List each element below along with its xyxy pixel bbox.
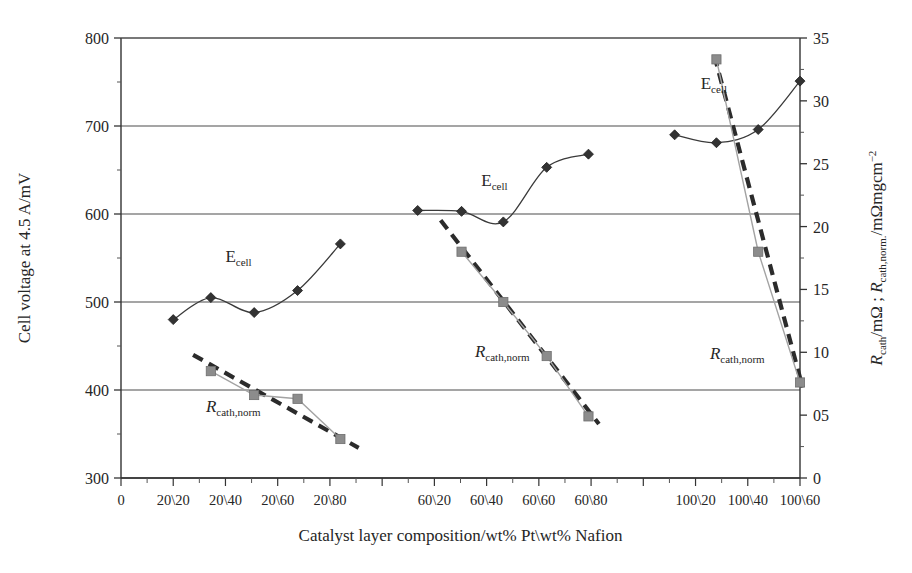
x-tick-label: 0 [117, 492, 124, 508]
y-tick-label-right: 20 [813, 219, 829, 236]
rcath-label-group1: Rcath,norm [205, 397, 261, 418]
data-point-square [206, 367, 215, 376]
data-point-diamond [498, 217, 508, 227]
data-point-diamond [457, 206, 467, 216]
data-point-diamond [711, 138, 721, 148]
x-tick-label: 60\40 [470, 492, 503, 508]
series-square [457, 247, 593, 421]
data-point-square [250, 390, 259, 399]
data-point-square [584, 412, 593, 421]
x-tick-label: 60\80 [575, 492, 608, 508]
data-point-diamond [583, 149, 593, 159]
y-tick-label-right: 35 [813, 30, 829, 47]
ecell-label-group1: Ecell [225, 247, 251, 268]
annotation-subscript: cell [711, 83, 727, 95]
data-point-diamond [670, 130, 680, 140]
x-tick-label: 100\40 [728, 492, 768, 508]
axis-title-part: R [867, 282, 886, 294]
annotation-base: R [709, 344, 721, 363]
x-axis-title: Catalyst layer composition/wt% Pt\wt% Na… [299, 526, 623, 545]
trend-group3 [714, 56, 802, 388]
series-line [462, 252, 589, 417]
chart-figure: 300400500600700800005101520253035020\202… [0, 0, 912, 573]
trend-group1 [193, 355, 359, 448]
x-tick-label: 20\20 [157, 492, 190, 508]
y-tick-label-right: 10 [813, 344, 829, 361]
y-tick-label-right: 25 [813, 156, 829, 173]
x-tick-label: 20\40 [209, 492, 242, 508]
y-tick-label-right: 30 [813, 93, 829, 110]
series-line [173, 244, 340, 320]
rcath-label-group2: Rcath,norm [474, 342, 530, 363]
x-tick-label: 60\20 [418, 492, 451, 508]
data-point-square [712, 55, 721, 64]
y-axis-title-right: Rcath/mΩ ; Rcath,norm./mΩmgcm−2 [866, 151, 888, 367]
annotation-subscript: cell [492, 180, 508, 192]
series-diamond [670, 76, 805, 148]
y-tick-label-right: 15 [813, 281, 829, 298]
annotation-base: E [225, 247, 235, 266]
annotation-subscript: cath,norm [720, 353, 765, 365]
x-tick-label: 60\60 [522, 492, 555, 508]
y-axis-right-ticks: 005101520253035 [800, 30, 829, 487]
annotation-subscript: cath,norm [485, 351, 530, 363]
axis-title-part: R [867, 354, 886, 366]
x-tick-label: 100\60 [780, 492, 820, 508]
y-tick-label-left: 600 [85, 206, 109, 223]
data-point-square [293, 394, 302, 403]
chart-canvas: 300400500600700800005101520253035020\202… [0, 0, 912, 573]
x-tick-label: 20\80 [313, 492, 346, 508]
axis-title-part: /mΩmgcm [867, 162, 886, 235]
y-axis-title-left: Cell voltage at 4.5 A/mV [15, 172, 34, 343]
axis-title-part: /mΩ ; [867, 293, 886, 337]
data-point-square [336, 434, 345, 443]
series-line [675, 81, 800, 143]
data-point-diamond [168, 315, 178, 325]
y-tick-label-left: 800 [85, 30, 109, 47]
y-tick-label-right: 05 [813, 407, 829, 424]
ecell-label-group2: Ecell [481, 171, 507, 192]
annotation-base: E [481, 171, 491, 190]
annotation-subscript: cell [236, 256, 252, 268]
y-tick-label-left: 400 [85, 382, 109, 399]
axis-title-part: cath [876, 336, 888, 355]
series-diamond [168, 239, 345, 325]
ecell-label-group3: Ecell [701, 74, 727, 95]
x-tick-label: 20\60 [261, 492, 294, 508]
annotation-base: E [701, 74, 711, 93]
rcath-label-group3: Rcath,norm [709, 344, 765, 365]
x-tick-label: 100\20 [675, 492, 715, 508]
trendlines [193, 56, 803, 448]
data-point-diamond [249, 308, 259, 318]
annotation-base: R [205, 397, 217, 416]
data-point-square [457, 247, 466, 256]
y-axis-left-ticks: 300400500600700800 [85, 30, 121, 487]
axis-title-part: cath,norm. [876, 235, 888, 282]
data-series [168, 55, 805, 444]
y-tick-label-left: 700 [85, 118, 109, 135]
y-tick-label-left: 300 [85, 470, 109, 487]
annotation-base: R [474, 342, 486, 361]
x-axis-ticks: 020\2020\4020\6020\8060\2060\4060\6060\8… [117, 478, 820, 508]
axis-title-part: −2 [866, 151, 878, 163]
annotation-subscript: cath,norm [216, 406, 261, 418]
data-point-diamond [206, 293, 216, 303]
y-tick-label-right: 0 [813, 470, 821, 487]
y-tick-label-left: 500 [85, 294, 109, 311]
data-point-square [499, 297, 508, 306]
data-point-square [754, 247, 763, 256]
data-point-square [542, 351, 551, 360]
data-point-square [795, 378, 804, 387]
